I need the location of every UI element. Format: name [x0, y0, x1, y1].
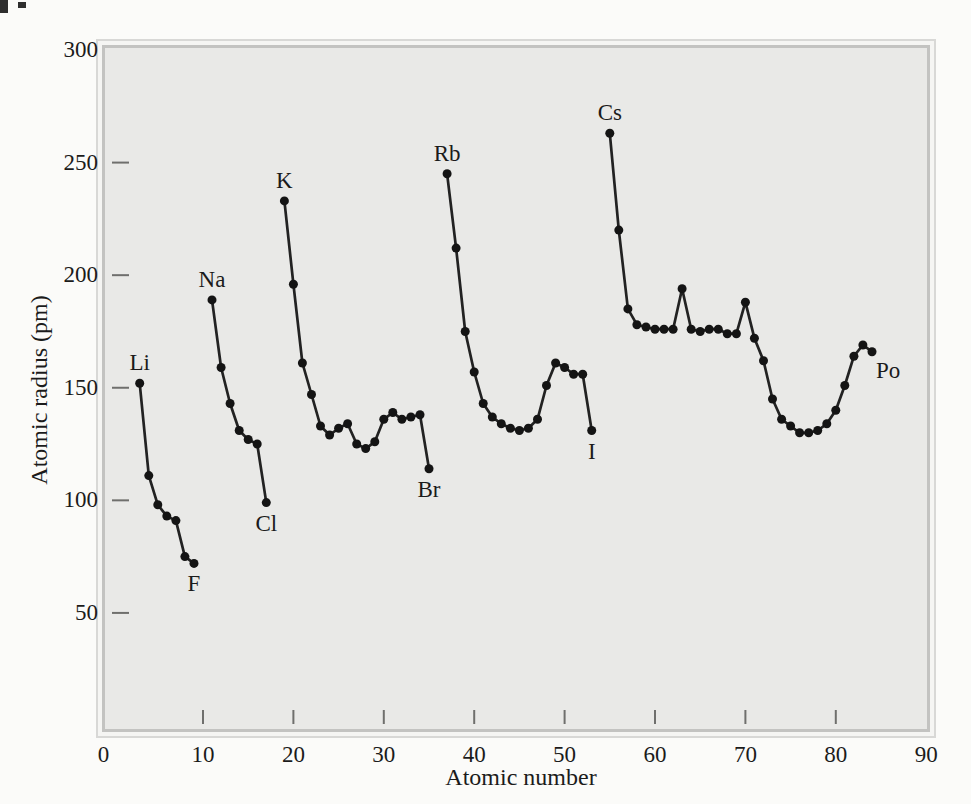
data-point [868, 347, 877, 356]
x-tick-label: 10 [173, 742, 233, 768]
data-point [488, 413, 497, 422]
y-tick-label: 250 [38, 150, 98, 176]
y-axis-title: Atomic radius (pm) [26, 240, 52, 540]
element-label-br: Br [418, 478, 441, 502]
data-point [361, 444, 370, 453]
data-point [180, 552, 189, 561]
data-point [235, 426, 244, 435]
data-point [208, 295, 217, 304]
data-point [759, 356, 768, 365]
data-point [262, 498, 271, 507]
element-label-f: F [188, 572, 201, 596]
data-point [379, 415, 388, 424]
data-point [524, 424, 533, 433]
series-line [447, 174, 592, 431]
data-point [370, 437, 379, 446]
data-point [786, 422, 795, 431]
data-point [795, 428, 804, 437]
x-tick-label: 90 [896, 742, 956, 768]
data-point [678, 284, 687, 293]
chart-canvas [0, 0, 971, 804]
data-point [642, 323, 651, 332]
data-point [660, 325, 669, 334]
element-label-cs: Cs [598, 101, 622, 125]
data-point [397, 415, 406, 424]
data-point [777, 415, 786, 424]
element-label-cl: Cl [255, 512, 277, 536]
data-point [190, 559, 199, 568]
data-point [840, 381, 849, 390]
data-point [443, 169, 452, 178]
data-point [162, 512, 171, 521]
data-point [741, 298, 750, 307]
data-point [822, 419, 831, 428]
series-line [284, 201, 429, 469]
data-point [687, 325, 696, 334]
data-point [325, 431, 334, 440]
data-point [515, 426, 524, 435]
data-point [768, 395, 777, 404]
data-point [289, 280, 298, 289]
data-point [732, 329, 741, 338]
data-point [705, 325, 714, 334]
element-label-na: Na [199, 268, 226, 292]
data-point [560, 363, 569, 372]
data-point [334, 424, 343, 433]
data-point [533, 415, 542, 424]
data-point [669, 325, 678, 334]
data-point [226, 399, 235, 408]
figure-page: 30025020015010050 0102030405060708090 Li… [0, 0, 971, 804]
data-point [506, 424, 515, 433]
x-tick-label: 20 [263, 742, 323, 768]
data-point [316, 422, 325, 431]
data-point [135, 379, 144, 388]
series-line [212, 300, 266, 503]
data-point [298, 359, 307, 368]
data-point [542, 381, 551, 390]
data-point [569, 370, 578, 379]
data-point [750, 334, 759, 343]
data-point [696, 327, 705, 336]
data-point [253, 440, 262, 449]
data-point [623, 304, 632, 313]
data-point [452, 244, 461, 253]
data-point [307, 390, 316, 399]
data-point [171, 516, 180, 525]
data-point [723, 329, 732, 338]
data-point [461, 327, 470, 336]
x-tick-label: 80 [806, 742, 866, 768]
y-tick-label: 50 [38, 600, 98, 626]
element-label-li: Li [129, 351, 149, 375]
data-point [470, 368, 479, 377]
data-point [425, 464, 434, 473]
data-point [153, 500, 162, 509]
x-tick-label: 70 [715, 742, 775, 768]
data-point [244, 435, 253, 444]
data-point [831, 406, 840, 415]
data-point [497, 419, 506, 428]
data-point [343, 419, 352, 428]
data-point [217, 363, 226, 372]
data-point [813, 426, 822, 435]
data-point [605, 129, 614, 138]
data-point [551, 359, 560, 368]
element-label-k: K [276, 169, 293, 193]
element-label-po: Po [876, 359, 900, 383]
data-point [144, 471, 153, 480]
y-tick-label: 300 [38, 37, 98, 63]
data-point [587, 426, 596, 435]
data-point [280, 196, 289, 205]
data-point [479, 399, 488, 408]
data-point [578, 370, 587, 379]
x-axis-title: Atomic number [371, 763, 671, 791]
data-point [416, 410, 425, 419]
data-point [651, 325, 660, 334]
x-tick-label: 0 [74, 742, 134, 768]
data-point [406, 413, 415, 422]
data-point [849, 352, 858, 361]
data-point [714, 325, 723, 334]
data-point [352, 440, 361, 449]
data-point [614, 226, 623, 235]
element-label-rb: Rb [434, 142, 461, 166]
data-point [804, 428, 813, 437]
